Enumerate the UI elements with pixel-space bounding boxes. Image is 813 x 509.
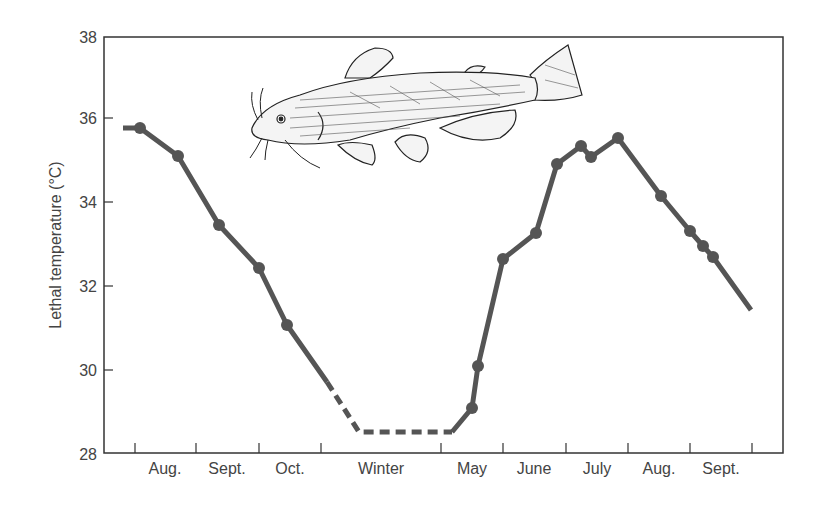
x-label-winter: Winter — [358, 460, 405, 477]
x-label-oct: Oct. — [275, 460, 304, 477]
line-segment-spring-summer — [452, 138, 751, 432]
y-tick-32: 32 — [79, 278, 97, 295]
x-axis-labels: Aug. Sept. Oct. Winter May June July Aug… — [149, 460, 740, 477]
y-tick-34: 34 — [79, 194, 97, 211]
y-axis: 38 36 34 32 30 28 Lethal temperature (°C… — [47, 29, 113, 463]
y-tick-38: 38 — [79, 29, 97, 46]
catfish-illustration — [250, 45, 582, 168]
x-label-aug: Aug. — [149, 460, 182, 477]
data-series — [123, 122, 751, 432]
x-label-sept-2: Sept. — [702, 460, 739, 477]
data-points — [134, 122, 719, 414]
y-tick-36: 36 — [79, 110, 97, 127]
x-label-sept: Sept. — [208, 460, 245, 477]
x-label-may: May — [457, 460, 487, 477]
y-tick-30: 30 — [79, 362, 97, 379]
x-label-july: July — [583, 460, 611, 477]
y-axis-title: Lethal temperature (°C) — [47, 161, 64, 328]
line-segment-fall — [123, 128, 327, 382]
lethal-temperature-chart: 38 36 34 32 30 28 Lethal temperature (°C… — [0, 0, 813, 509]
x-axis — [135, 443, 752, 453]
line-segment-winter-dashed — [327, 382, 452, 432]
y-tick-28: 28 — [79, 446, 97, 463]
x-label-aug-2: Aug. — [643, 460, 676, 477]
x-label-june: June — [517, 460, 552, 477]
